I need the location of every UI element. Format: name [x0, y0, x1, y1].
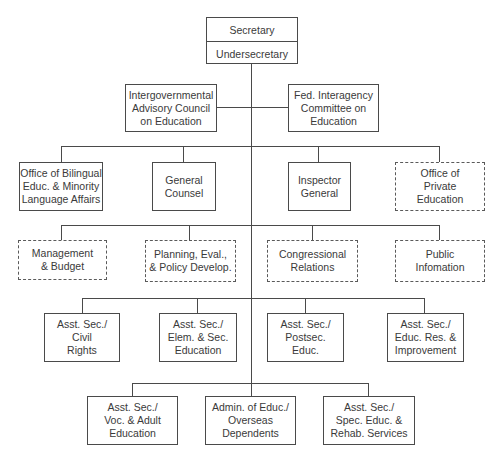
planning-evaluation-box: Planning, Eval., & Policy Develop. [145, 240, 236, 282]
main-trunk-line [251, 64, 252, 396]
overseas-dependents-box: Admin. of Educ./ Overseas Dependents [205, 396, 296, 445]
secretary-label: Secretary [207, 18, 297, 42]
elementary-secondary-education-box: Asst. Sec./ Elem. & Sec. Education [159, 313, 237, 362]
vocational-adult-education-box: Asst. Sec./ Voc. & Adult Education [87, 396, 178, 445]
assistants-row1-drop [82, 298, 83, 313]
assistants-row1-drop [305, 298, 306, 313]
general-counsel-box: General Counsel [152, 162, 216, 211]
staff-drop [439, 225, 440, 240]
advisory-connector [216, 107, 288, 108]
educational-research-box: Asst. Sec./ Educ. Res. & Improvement [387, 313, 464, 362]
congressional-relations-box: Congressional Relations [267, 240, 358, 282]
intergovernmental-advisory-council-box: Intergovernmental Advisory Council on Ed… [125, 84, 217, 132]
offices-connector [61, 146, 440, 147]
assistants-row2-drop [368, 383, 369, 396]
assistants-row1-connector [82, 298, 425, 299]
assistants-row2-drop [132, 383, 133, 396]
offices-drop [318, 146, 319, 162]
undersecretary-label: Undersecretary [207, 42, 297, 65]
secretary-box: Secretary Undersecretary [206, 17, 298, 64]
staff-drop [61, 225, 62, 240]
special-education-rehab-box: Asst. Sec./ Spec. Educ. & Rehab. Service… [323, 396, 415, 445]
offices-drop [61, 146, 62, 162]
offices-drop [183, 146, 184, 162]
management-budget-box: Management & Budget [18, 240, 107, 280]
private-education-office-box: Office of Private Education [395, 162, 485, 211]
federal-interagency-committee-box: Fed. Interagency Committee on Education [288, 84, 379, 132]
staff-drop [312, 225, 313, 240]
assistants-row2-connector [132, 383, 369, 384]
public-information-box: Public Infomation [395, 240, 485, 282]
inspector-general-box: Inspector General [288, 162, 351, 211]
offices-drop [439, 146, 440, 162]
civil-rights-box: Asst. Sec./ Civil Rights [44, 313, 120, 362]
postsecondary-education-box: Asst. Sec./ Postsec. Educ. [267, 313, 344, 362]
bilingual-education-office-box: Office of Bilingual Educ. & Minority Lan… [19, 162, 103, 211]
staff-connector [61, 225, 440, 226]
staff-drop [189, 225, 190, 240]
assistants-row1-drop [424, 298, 425, 313]
assistants-row1-drop [197, 298, 198, 313]
